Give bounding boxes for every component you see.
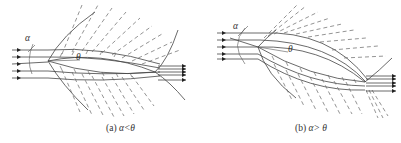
trailing-shock-upper (365, 58, 392, 82)
caption-b: (b) α> θ (295, 123, 327, 133)
outgoing-flow-arrows (158, 64, 186, 82)
mach-waves-lower (62, 70, 154, 117)
alpha-label: α (25, 33, 30, 43)
alpha-label: α (233, 21, 238, 31)
caption-a-prefix: (a) (106, 123, 119, 133)
flow-diagram-b (200, 0, 401, 143)
panel-a-alpha-less-than-theta: α θ (a) α<θ (0, 0, 200, 143)
caption-b-expression: α> θ (308, 123, 326, 133)
leading-shock-upper (48, 12, 95, 61)
flow-diagram-a (0, 0, 200, 143)
caption-b-prefix: (b) (295, 123, 308, 133)
outgoing-flow-arrows (366, 74, 396, 93)
leading-shock-lower (258, 47, 296, 98)
leading-shock-lower (48, 61, 88, 110)
mach-waves-upper (264, 4, 386, 58)
theta-label: θ (288, 44, 293, 54)
surface-hatches (272, 56, 356, 83)
caption-a-expression: α<θ (119, 123, 135, 133)
panel-b-alpha-greater-than-theta: α θ (b) α> θ (200, 0, 401, 143)
airfoil-lower-surface (48, 61, 155, 74)
theta-label: θ (76, 52, 81, 62)
caption-a: (a) α<θ (106, 123, 135, 133)
